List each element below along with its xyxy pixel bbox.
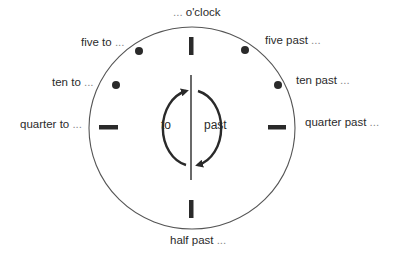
label-quarter-past-ellipsis: ... — [366, 116, 379, 128]
label-ten-to-text: ten to — [52, 76, 81, 88]
label-five-to-text: five to — [81, 36, 112, 48]
mark-3-bar — [268, 125, 286, 130]
label-five-past-text: five past — [265, 34, 308, 46]
label-five-past: five past ... — [265, 34, 321, 47]
mark-2-dot — [274, 81, 282, 89]
label-inner-past: past — [204, 119, 227, 132]
label-inner-to: to — [161, 119, 171, 132]
label-five-to: five to ... — [81, 36, 124, 49]
mark-10-dot — [112, 81, 120, 89]
label-ten-to-ellipsis: ... — [81, 76, 94, 88]
mark-9-bar — [99, 125, 118, 130]
label-quarter-to-ellipsis: ... — [69, 118, 82, 130]
label-half-past-ellipsis: ... — [213, 234, 226, 246]
label-five-to-ellipsis: ... — [112, 36, 125, 48]
label-quarter-past-text: quarter past — [305, 116, 366, 128]
label-oclock-text: o'clock — [186, 6, 221, 18]
label-ten-past: ten past ... — [296, 74, 350, 87]
label-quarter-past: quarter past ... — [305, 116, 379, 129]
clock-diagram: ... o'clock five to ... ten to ... quart… — [0, 0, 395, 260]
label-five-past-ellipsis: ... — [308, 34, 321, 46]
clock-face-circle — [89, 27, 295, 229]
mark-1-dot — [241, 46, 249, 54]
mark-11-dot — [135, 47, 143, 55]
label-quarter-to: quarter to ... — [20, 118, 82, 131]
label-ten-past-ellipsis: ... — [337, 74, 350, 86]
label-ten-to: ten to ... — [52, 76, 94, 89]
mark-6-bar — [189, 200, 194, 218]
label-quarter-to-text: quarter to — [20, 118, 69, 130]
label-oclock: ... o'clock — [173, 6, 221, 19]
label-half-past: half past ... — [170, 234, 226, 247]
mark-12-bar — [189, 37, 194, 55]
label-ten-past-text: ten past — [296, 74, 337, 86]
label-oclock-ellipsis: ... — [173, 6, 186, 18]
label-half-past-text: half past — [170, 234, 213, 246]
